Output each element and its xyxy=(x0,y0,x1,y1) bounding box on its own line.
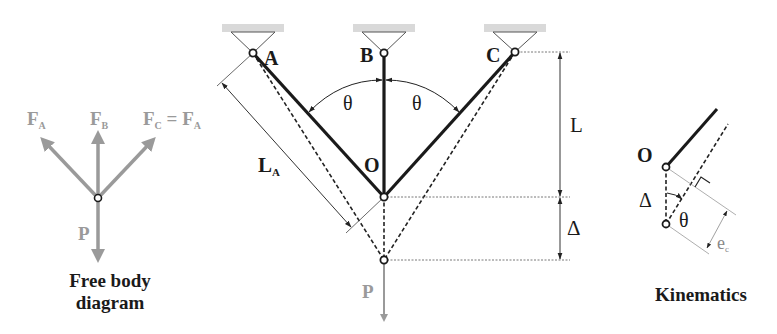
label-fa: FA xyxy=(27,108,47,131)
kin-joint-o xyxy=(663,164,670,171)
kin-label-theta: θ xyxy=(679,209,689,231)
kin-label-o: O xyxy=(637,144,653,166)
kin-label-delta: Δ xyxy=(639,189,652,211)
kinematics-diagram: O Δ θ ec xyxy=(637,109,736,254)
member-c-deformed xyxy=(384,52,515,260)
joint-o xyxy=(380,193,387,200)
kin-perp-line-top xyxy=(666,167,736,215)
force-fa-arrow xyxy=(45,142,98,198)
label-fc-eq-fa: FC = FA xyxy=(143,108,202,131)
member-c xyxy=(384,52,515,197)
caption-free-body: Free body diagram xyxy=(50,270,170,314)
angle-arc-right xyxy=(386,80,459,112)
label-c: C xyxy=(486,44,500,66)
la-ext-bottom xyxy=(346,197,384,233)
label-l: L xyxy=(570,113,583,137)
label-o: O xyxy=(364,154,380,176)
force-fc-arrow xyxy=(98,142,151,198)
kin-label-ec: ec xyxy=(717,233,729,254)
pin-a xyxy=(249,49,256,56)
label-b: B xyxy=(360,44,373,66)
label-fb: FB xyxy=(90,108,109,131)
label-p-fbd: P xyxy=(78,223,90,244)
right-angle-marker xyxy=(695,177,710,187)
kin-member-deformed xyxy=(666,124,728,224)
label-p: P xyxy=(362,281,374,302)
theta-left: θ xyxy=(343,92,353,114)
label-delta: Δ xyxy=(567,216,581,240)
caption-kinematics: Kinematics xyxy=(636,284,766,306)
label-a: A xyxy=(264,47,279,69)
fbd-joint xyxy=(95,195,102,202)
kin-angle-arc xyxy=(667,193,682,199)
pin-b xyxy=(380,49,387,56)
la-ext-top xyxy=(217,53,253,86)
caption-free-body-line2: diagram xyxy=(50,292,170,314)
theta-right: θ xyxy=(412,92,422,114)
main-truss: θ θ LA L Δ P A B C O xyxy=(217,24,583,318)
free-body-diagram: FA FB FC = FA P xyxy=(27,108,202,256)
kin-joint-displaced xyxy=(663,221,670,228)
pin-c xyxy=(511,48,518,55)
caption-free-body-line1: Free body xyxy=(50,270,170,292)
kin-member xyxy=(666,109,717,167)
label-la: LA xyxy=(258,153,280,178)
joint-o-displaced xyxy=(380,256,387,263)
